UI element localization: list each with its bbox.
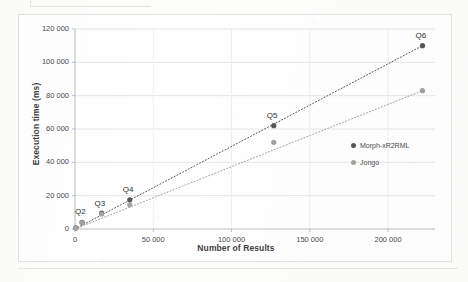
legend-item[interactable]: Jongo bbox=[351, 159, 409, 166]
legend-item-label: Morph-xR2RML bbox=[360, 142, 409, 149]
data-point-label: Q3 bbox=[95, 199, 106, 208]
legend-item-label: Jongo bbox=[360, 159, 379, 166]
x-tick-label: 150 000 bbox=[280, 235, 340, 244]
y-tick-label: 0 bbox=[23, 224, 69, 233]
y-tick-label: 80 000 bbox=[23, 91, 69, 100]
data-point-morph-xr2rml bbox=[127, 197, 132, 202]
y-tick-label: 20 000 bbox=[23, 191, 69, 200]
scan-page-edge-bottom bbox=[18, 268, 458, 269]
y-tick-label: 40 000 bbox=[23, 157, 69, 166]
data-point-jongo bbox=[73, 226, 78, 231]
legend-marker-icon bbox=[351, 160, 356, 165]
data-point-jongo bbox=[127, 202, 132, 207]
x-tick-label: 50 000 bbox=[123, 235, 183, 244]
data-point-jongo bbox=[79, 220, 84, 225]
data-point-label: Q6 bbox=[415, 31, 426, 40]
data-point-jongo bbox=[271, 140, 276, 145]
data-point-jongo bbox=[99, 211, 104, 216]
legend-item[interactable]: Morph-xR2RML bbox=[351, 142, 409, 149]
legend-marker-icon bbox=[351, 143, 356, 148]
y-tick-label: 120 000 bbox=[23, 24, 69, 33]
chart-legend: Morph-xR2RMLJongo bbox=[351, 142, 409, 176]
x-tick-label: 0 bbox=[45, 235, 105, 244]
data-point-jongo bbox=[420, 88, 425, 93]
y-tick-label: 60 000 bbox=[23, 124, 69, 133]
x-axis-title: Number of Results bbox=[19, 243, 453, 253]
scatter-chart-canvas bbox=[19, 15, 453, 263]
trendline-morph-xr2rml bbox=[75, 46, 422, 229]
y-tick-label: 100 000 bbox=[23, 57, 69, 66]
data-point-morph-xr2rml bbox=[420, 43, 425, 48]
data-point-label: Q5 bbox=[267, 111, 278, 120]
scan-page-edge-top bbox=[30, 0, 151, 7]
chart-plot-frame: Execution time (ms) Number of Results 02… bbox=[18, 14, 452, 262]
x-tick-label: 100 000 bbox=[202, 235, 262, 244]
data-point-label: Q2 bbox=[75, 207, 86, 216]
data-point-morph-xr2rml bbox=[271, 123, 276, 128]
data-point-label: Q4 bbox=[123, 185, 134, 194]
x-tick-label: 200 000 bbox=[358, 235, 418, 244]
